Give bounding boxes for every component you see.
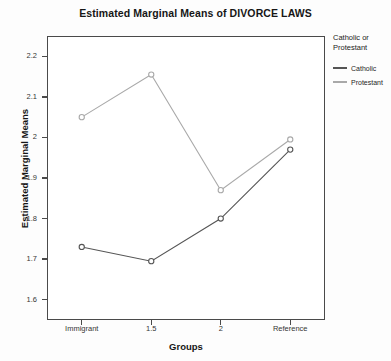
y-tick-label: 1.7 [3, 254, 37, 263]
y-tick-label: 1.6 [3, 295, 37, 304]
legend-line-icon [333, 81, 347, 82]
y-tick-label: 1.9 [3, 173, 37, 182]
data-point-protestant-0 [79, 115, 84, 120]
y-tick-mark [42, 96, 47, 97]
legend-entry-label: Catholic [351, 65, 376, 72]
data-point-catholic-1 [149, 259, 154, 264]
y-tick-mark [42, 177, 47, 178]
y-tick-mark [42, 218, 47, 219]
y-tick-label: 2 [3, 132, 37, 141]
chart-figure: Estimated Marginal Means of DIVORCE LAWS… [0, 0, 391, 361]
x-tick-label: 1.5 [111, 324, 191, 333]
x-tick-label: 2 [181, 324, 261, 333]
y-tick-mark [42, 56, 47, 57]
legend: Catholic or Protestant CatholicProtestan… [333, 33, 391, 90]
legend-title-line-2: Protestant [333, 43, 391, 53]
legend-entry-label: Protestant [351, 79, 383, 86]
data-point-catholic-0 [79, 244, 84, 249]
y-tick-label: 2.1 [3, 92, 37, 101]
y-tick-label: 2.2 [3, 51, 37, 60]
series-line-protestant [82, 75, 291, 191]
plot-series-canvas [47, 36, 325, 320]
y-tick-label: 1.8 [3, 214, 37, 223]
legend-title-line-1: Catholic or [333, 33, 391, 43]
data-point-catholic-2 [218, 216, 223, 221]
y-tick-mark [42, 299, 47, 300]
legend-entry-protestant: Protestant [333, 76, 391, 88]
legend-title: Catholic or Protestant [333, 33, 391, 52]
data-point-protestant-2 [218, 188, 223, 193]
data-point-protestant-1 [149, 72, 154, 77]
x-axis-label: Groups [47, 341, 325, 352]
y-tick-mark [42, 258, 47, 259]
data-point-catholic-3 [288, 147, 293, 152]
legend-entry-catholic: Catholic [333, 62, 391, 74]
chart-title: Estimated Marginal Means of DIVORCE LAWS [0, 7, 391, 19]
data-point-protestant-3 [288, 137, 293, 142]
x-tick-label: Immigrant [42, 324, 122, 333]
legend-line-icon [333, 67, 347, 68]
y-tick-mark [42, 137, 47, 138]
series-line-catholic [82, 150, 291, 262]
x-tick-label: Reference [250, 324, 330, 333]
